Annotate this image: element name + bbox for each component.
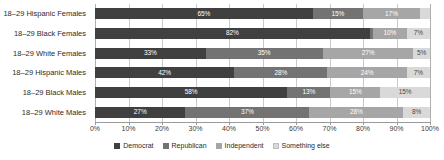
bar-segment[interactable]: 58% (95, 87, 287, 98)
stacked-bar: 82%10%7% (95, 28, 430, 39)
x-axis-tick-label: 80% (356, 122, 370, 132)
chart-legend: DemocratRepublicanIndependentSomething e… (0, 142, 444, 149)
bar-segment[interactable]: 27% (323, 48, 413, 59)
bar-segment[interactable]: 33% (95, 48, 206, 59)
y-axis-label: 18–29 Black Females (0, 24, 90, 44)
x-axis-tick-label: 60% (289, 122, 303, 132)
x-axis-tick-label: 20% (155, 122, 169, 132)
plot-area: 65%15%17%82%10%7%33%35%27%5%42%28%24%7%5… (95, 4, 430, 122)
bar-segment[interactable] (420, 8, 430, 19)
bar-segment[interactable]: 7% (407, 28, 430, 39)
legend-item[interactable]: Something else (273, 142, 330, 149)
bar-segment[interactable]: 24% (327, 67, 407, 78)
bar-row: 27%37%28%8% (95, 102, 430, 122)
bar-segment[interactable]: 17% (363, 8, 420, 19)
x-axis-tick-label: 30% (188, 122, 202, 132)
bar-segment[interactable]: 65% (95, 8, 313, 19)
legend-item[interactable]: Independent (216, 142, 264, 149)
bar-segment[interactable]: 5% (413, 48, 430, 59)
x-axis-tick-labels: 0%10%20%30%40%50%60%70%80%90%100% (95, 122, 430, 134)
legend-swatch-icon (163, 143, 169, 149)
bar-row: 58%13%15%15% (95, 83, 430, 103)
bar-segment[interactable]: 8% (403, 107, 430, 118)
legend-item[interactable]: Democrat (114, 142, 153, 149)
bar-segment[interactable]: 15% (380, 87, 430, 98)
legend-swatch-icon (273, 143, 279, 149)
bar-segment[interactable]: 15% (313, 8, 363, 19)
bar-row: 65%15%17% (95, 4, 430, 24)
stacked-bar-chart: 18–29 Hispanic Females18–29 Black Female… (0, 0, 444, 160)
y-axis-category-labels: 18–29 Hispanic Females18–29 Black Female… (0, 4, 90, 122)
legend-swatch-icon (216, 143, 222, 149)
legend-item[interactable]: Republican (163, 142, 207, 149)
bar-segment[interactable]: 28% (309, 107, 403, 118)
x-axis-tick-label: 40% (222, 122, 236, 132)
bar-row: 42%28%24%7% (95, 63, 430, 83)
legend-swatch-icon (114, 143, 120, 149)
stacked-bar: 27%37%28%8% (95, 107, 430, 118)
bar-row: 33%35%27%5% (95, 43, 430, 63)
bar-segment[interactable]: 7% (407, 67, 430, 78)
bar-segment[interactable]: 35% (206, 48, 323, 59)
legend-label: Independent (225, 142, 264, 149)
bar-rows: 65%15%17%82%10%7%33%35%27%5%42%28%24%7%5… (95, 4, 430, 122)
legend-label: Something else (282, 142, 330, 149)
x-axis-tick-label: 50% (255, 122, 269, 132)
bar-segment[interactable]: 27% (95, 107, 185, 118)
bar-segment[interactable]: 15% (330, 87, 380, 98)
x-axis-tick-label: 100% (421, 122, 439, 132)
bar-segment[interactable]: 42% (95, 67, 234, 78)
bar-segment[interactable]: 37% (185, 107, 309, 118)
bar-row: 82%10%7% (95, 24, 430, 44)
y-axis-label: 18–29 Hispanic Males (0, 63, 90, 83)
x-axis-tick-label: 90% (389, 122, 403, 132)
x-axis-tick-label: 70% (322, 122, 336, 132)
stacked-bar: 42%28%24%7% (95, 67, 430, 78)
stacked-bar: 58%13%15%15% (95, 87, 430, 98)
stacked-bar: 65%15%17% (95, 8, 430, 19)
y-axis-label: 18–29 White Males (0, 102, 90, 122)
x-axis-tick-label: 0% (90, 122, 100, 132)
x-axis-tick-label: 10% (121, 122, 135, 132)
bar-segment[interactable]: 13% (287, 87, 330, 98)
y-axis-label: 18–29 White Females (0, 43, 90, 63)
gridline (430, 4, 431, 122)
bar-segment[interactable]: 10% (373, 28, 407, 39)
legend-label: Republican (172, 142, 207, 149)
legend-label: Democrat (123, 142, 153, 149)
stacked-bar: 33%35%27%5% (95, 48, 430, 59)
bar-segment[interactable]: 82% (95, 28, 370, 39)
y-axis-label: 18–29 Black Males (0, 83, 90, 103)
bar-segment[interactable]: 28% (234, 67, 327, 78)
y-axis-label: 18–29 Hispanic Females (0, 4, 90, 24)
